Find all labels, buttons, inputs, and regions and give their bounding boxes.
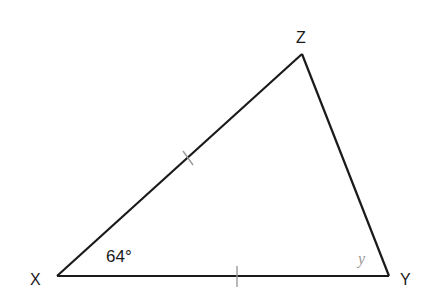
vertex-label-x: X (30, 271, 41, 288)
side-xz (57, 54, 302, 276)
side-zy (302, 54, 389, 276)
vertex-label-z: Z (296, 29, 306, 46)
triangle-figure: X Y Z 64° y (0, 0, 434, 302)
triangle-diagram: X Y Z 64° y (0, 0, 434, 302)
vertex-label-y: Y (400, 271, 411, 288)
angle-label-x: 64° (106, 247, 132, 266)
angle-label-y: y (356, 250, 366, 268)
